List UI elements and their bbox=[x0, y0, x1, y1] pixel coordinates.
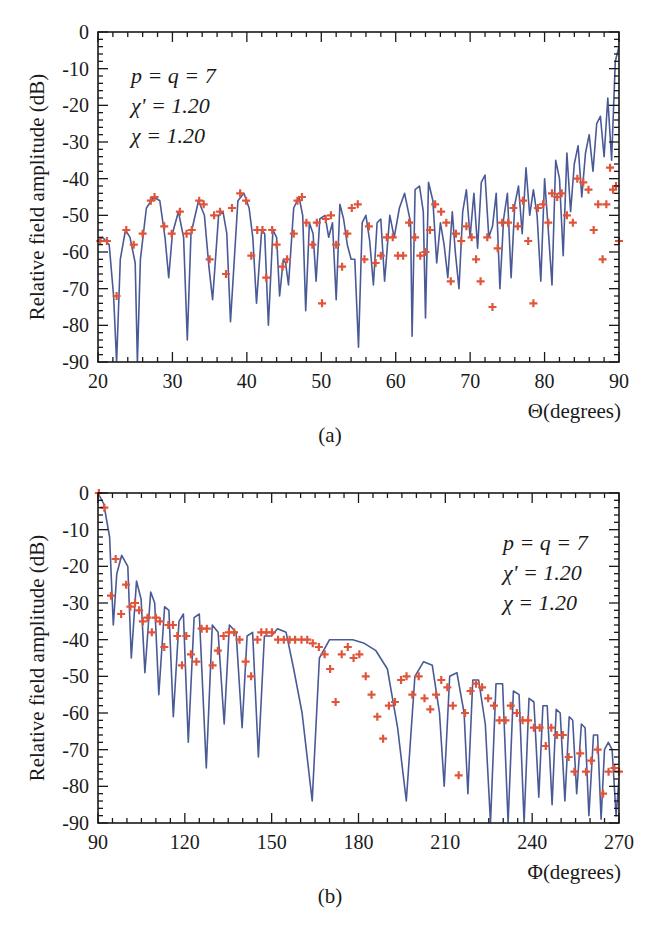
plus-marker bbox=[582, 768, 590, 776]
plus-marker bbox=[160, 222, 168, 230]
y-tick-label: -60 bbox=[62, 241, 89, 263]
plus-marker bbox=[379, 735, 387, 743]
annotation-line: χ' = 1.20 bbox=[501, 560, 582, 585]
panel-a: 20304050607080900-10-20-30-40-50-60-70-8… bbox=[0, 0, 660, 468]
y-axis-label: Relative field amplitude (dB) bbox=[25, 535, 49, 782]
x-tick-label: 210 bbox=[430, 831, 460, 853]
plus-marker bbox=[442, 219, 450, 227]
chart-b: 901201501802102402700-10-20-30-40-50-60-… bbox=[0, 468, 660, 937]
plus-marker bbox=[502, 716, 510, 724]
plus-marker bbox=[326, 665, 334, 673]
plus-marker bbox=[514, 222, 522, 230]
annotation-line: p = q = 7 bbox=[129, 63, 217, 88]
plus-marker bbox=[584, 186, 592, 194]
plus-marker bbox=[268, 628, 276, 636]
x-tick-label: 150 bbox=[257, 831, 287, 853]
annotation-line: p = q = 7 bbox=[501, 530, 589, 555]
plus-marker bbox=[461, 709, 469, 717]
panel-b: 901201501802102402700-10-20-30-40-50-60-… bbox=[0, 468, 660, 937]
x-tick-label: 40 bbox=[237, 370, 257, 392]
plus-marker bbox=[362, 672, 370, 680]
chart-a: 20304050607080900-10-20-30-40-50-60-70-8… bbox=[0, 0, 660, 468]
plus-marker bbox=[504, 219, 512, 227]
y-tick-label: -10 bbox=[62, 58, 89, 80]
plus-marker bbox=[447, 277, 455, 285]
plus-marker bbox=[457, 237, 465, 245]
plus-marker bbox=[168, 230, 176, 238]
plus-marker bbox=[565, 753, 573, 761]
y-tick-label: -30 bbox=[62, 131, 89, 153]
plus-marker bbox=[437, 676, 445, 684]
y-tick-label: -20 bbox=[62, 94, 89, 116]
plus-marker bbox=[122, 226, 130, 234]
plus-marker bbox=[344, 643, 352, 651]
x-tick-label: 120 bbox=[170, 831, 200, 853]
plus-marker bbox=[253, 636, 261, 644]
plus-marker bbox=[490, 702, 498, 710]
y-tick-label: -70 bbox=[62, 739, 89, 761]
plus-marker bbox=[290, 230, 298, 238]
plus-marker bbox=[602, 200, 610, 208]
plus-marker bbox=[594, 200, 602, 208]
plus-marker bbox=[494, 244, 502, 252]
plus-marker bbox=[107, 592, 115, 600]
plus-marker bbox=[148, 628, 156, 636]
plus-marker bbox=[559, 731, 567, 739]
y-tick-label: -90 bbox=[62, 351, 89, 373]
plus-marker bbox=[117, 610, 125, 618]
plus-marker bbox=[408, 691, 416, 699]
plus-marker bbox=[576, 749, 584, 757]
plus-marker bbox=[599, 255, 607, 263]
plus-marker bbox=[411, 233, 419, 241]
plus-marker bbox=[468, 233, 476, 241]
y-tick-label: 0 bbox=[79, 482, 89, 504]
plus-marker bbox=[467, 687, 475, 695]
annotation-line: χ = 1.20 bbox=[129, 123, 205, 148]
panel-caption-b: (b) bbox=[0, 884, 660, 909]
plus-marker bbox=[524, 237, 532, 245]
plus-marker bbox=[338, 263, 346, 271]
x-tick-label: 80 bbox=[535, 370, 555, 392]
y-tick-label: -30 bbox=[62, 592, 89, 614]
plus-marker bbox=[139, 230, 147, 238]
y-tick-label: -80 bbox=[62, 775, 89, 797]
plus-marker bbox=[524, 716, 532, 724]
annotation-line: χ' = 1.20 bbox=[129, 93, 210, 118]
plus-marker bbox=[318, 299, 326, 307]
plus-marker bbox=[449, 702, 457, 710]
x-tick-label: 70 bbox=[460, 370, 480, 392]
plus-marker bbox=[214, 647, 222, 655]
y-tick-label: -50 bbox=[62, 665, 89, 687]
plus-marker bbox=[332, 698, 340, 706]
plus-marker bbox=[192, 658, 200, 666]
plus-marker bbox=[321, 650, 329, 658]
plus-marker bbox=[368, 691, 376, 699]
y-tick-label: -60 bbox=[62, 702, 89, 724]
plus-marker bbox=[587, 757, 595, 765]
plus-marker bbox=[529, 299, 537, 307]
plus-marker bbox=[187, 650, 195, 658]
x-tick-label: 240 bbox=[517, 831, 547, 853]
plus-marker bbox=[365, 222, 373, 230]
plus-marker bbox=[544, 219, 552, 227]
plus-marker bbox=[389, 233, 397, 241]
plus-marker bbox=[606, 164, 614, 172]
x-tick-label: 90 bbox=[609, 370, 629, 392]
y-tick-label: -80 bbox=[62, 314, 89, 336]
parameter-annotation: p = q = 7χ' = 1.20χ = 1.20 bbox=[501, 530, 589, 615]
plus-marker bbox=[509, 204, 517, 212]
x-tick-label: 90 bbox=[88, 831, 108, 853]
plus-marker bbox=[443, 683, 451, 691]
parameter-annotation: p = q = 7χ' = 1.20χ = 1.20 bbox=[129, 63, 217, 148]
plus-marker bbox=[338, 650, 346, 658]
plus-marker bbox=[273, 241, 281, 249]
plus-marker bbox=[112, 555, 120, 563]
plus-marker bbox=[432, 691, 440, 699]
plus-marker bbox=[228, 204, 236, 212]
y-axis-label: Relative field amplitude (dB) bbox=[25, 74, 49, 321]
plus-marker bbox=[484, 694, 492, 702]
plus-marker bbox=[373, 713, 381, 721]
plus-marker bbox=[455, 771, 463, 779]
x-tick-label: 60 bbox=[386, 370, 406, 392]
y-tick-label: -70 bbox=[62, 278, 89, 300]
